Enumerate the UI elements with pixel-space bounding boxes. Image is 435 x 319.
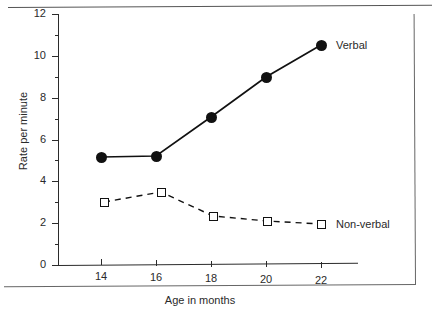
series-label-nonverbal: Non-verbal [336, 218, 390, 230]
verbal-point-18 [206, 112, 217, 123]
series-label-verbal: Verbal [336, 39, 367, 51]
nonverbal-point-22 [317, 220, 326, 229]
plot-area: 0 2 4 6 8 10 12 14 16 18 20 22 Age in m [0, 0, 435, 319]
verbal-line [101, 45, 321, 157]
series-lines [0, 0, 435, 319]
nonverbal-point-16 [157, 188, 166, 197]
nonverbal-point-14 [100, 198, 109, 207]
nonverbal-point-20 [263, 217, 272, 226]
verbal-point-14 [96, 152, 107, 163]
chart-figure: 0 2 4 6 8 10 12 14 16 18 20 22 Age in m [0, 0, 435, 319]
verbal-point-22 [316, 40, 327, 51]
verbal-point-16 [151, 151, 162, 162]
nonverbal-point-18 [209, 212, 218, 221]
verbal-point-20 [261, 72, 272, 83]
